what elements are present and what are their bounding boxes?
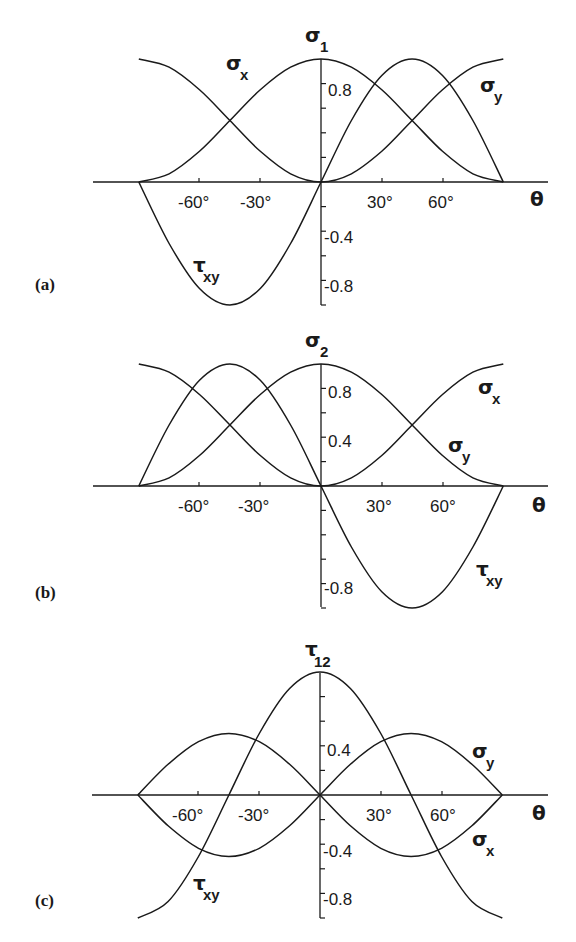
sigma-x-label: σ x [226,51,249,83]
y-axis-title: σ 2 [305,328,328,360]
panel-b: -60° -30° 30° 60° θ 0.8 0.4 -0.8 σ 2 σ x… [35,328,548,608]
svg-text:x: x [486,842,495,859]
y-tick-label: -0.8 [324,277,353,296]
y-ticks [321,388,326,608]
svg-text:xy: xy [203,268,220,285]
svg-text:x: x [492,390,501,407]
panel-label: (c) [35,891,54,910]
x-tick-label: -30° [240,193,271,212]
theta-axis-label: θ [532,801,546,825]
y-tick-label: -0.4 [323,842,352,861]
x-tick-label: -60° [172,806,203,825]
svg-text:2: 2 [320,343,328,360]
tau-xy-label: τ xy [193,253,220,285]
svg-text:x: x [240,66,249,83]
x-tick-label: -30° [238,806,269,825]
x-tick-label: 30° [367,193,393,212]
svg-text:xy: xy [203,886,220,903]
x-tick-label: -60° [178,193,209,212]
theta-axis-label: θ [530,187,544,211]
svg-text:y: y [486,754,495,771]
sigma-y-label: σ y [480,73,503,105]
sigma-y-label: σ y [448,433,471,465]
svg-text:xy: xy [486,572,503,589]
x-tick-label: -30° [238,497,269,516]
y-ticks [321,84,326,305]
svg-text:12: 12 [314,653,331,670]
x-tick-label: 60° [428,193,454,212]
y-tick-label: 0.8 [328,81,352,100]
y-axis-title: τ 12 [305,637,331,670]
theta-axis-label: θ [532,493,546,517]
tau-xy-label: τ xy [193,871,220,903]
y-tick-label: -0.4 [324,228,353,247]
y-tick-label: 0.8 [328,383,352,402]
svg-text:σ: σ [305,328,321,352]
svg-text:y: y [494,88,503,105]
panel-c: -60° -30° 30° 60° θ 0.4 -0.4 -0.8 τ 12 σ… [35,637,548,918]
svg-text:1: 1 [320,38,328,55]
y-tick-label: -0.8 [323,890,352,909]
y-axis-title: σ 1 [305,23,328,55]
panel-a: -60° -30° 30° 60° θ 0.8 -0.4 -0.8 σ 1 σ … [35,23,548,305]
x-tick-label: 60° [430,497,456,516]
x-tick-label: 30° [366,806,392,825]
panel-label: (a) [35,275,55,294]
sigma-x-label: σ x [478,375,501,407]
svg-text:σ: σ [305,23,321,47]
y-ticks [320,697,325,918]
stress-transformation-figure: -60° -30° 30° 60° θ 0.8 -0.4 -0.8 σ 1 σ … [0,0,576,942]
panel-label: (b) [35,583,56,602]
svg-text:y: y [462,448,471,465]
y-tick-label: 0.4 [327,741,351,760]
sigma-x-label: σ x [472,827,495,859]
x-tick-label: 30° [366,497,392,516]
y-tick-label: 0.4 [328,432,352,451]
tau-xy-label: τ xy [476,557,503,589]
x-tick-label: 60° [430,806,456,825]
x-tick-label: -60° [178,497,209,516]
y-tick-label: -0.8 [324,579,353,598]
sigma-y-label: σ y [472,739,495,771]
